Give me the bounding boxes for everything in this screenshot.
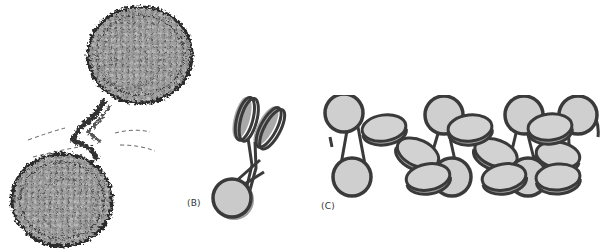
panel-b-label: (B) — [187, 198, 201, 208]
panel-a-molecular-structure — [0, 0, 200, 249]
stacked-nucleosomes-diagram — [200, 90, 300, 220]
panel-c-label: (C) — [321, 201, 335, 211]
chromatin-fiber-diagram — [318, 95, 601, 205]
dashed-outline-curve — [115, 130, 150, 133]
dashed-outline-curve — [120, 145, 155, 151]
panel-b-nucleosome-schematic: (B) — [200, 90, 300, 220]
nucleosome-molecular-rendering — [0, 0, 200, 249]
panel-c-chromatin-fiber: (C) — [318, 95, 601, 220]
dashed-outline-curve — [28, 128, 65, 140]
